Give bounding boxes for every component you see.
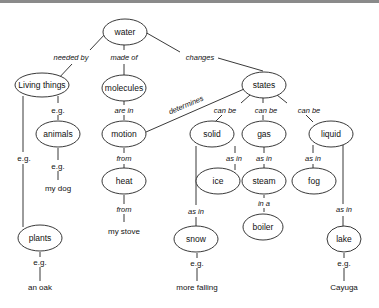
node-lake: lake bbox=[327, 226, 361, 252]
link-label-as-in: as in bbox=[226, 154, 242, 163]
link-label-as-in: as in bbox=[188, 207, 204, 216]
node-boiler: boiler bbox=[243, 214, 283, 240]
node-label: molecules bbox=[105, 83, 143, 93]
node-label: animals bbox=[43, 129, 72, 139]
node-label: boiler bbox=[253, 222, 274, 232]
link-label-can-be: can be bbox=[255, 106, 278, 115]
link-label-made-of: made of bbox=[110, 53, 138, 62]
link-label-from: from bbox=[117, 205, 132, 214]
link-label-from: from bbox=[117, 154, 132, 163]
link-label-eg: e.g. bbox=[337, 259, 350, 268]
node-steam: steam bbox=[242, 168, 286, 194]
link-label-needed-by: needed by bbox=[53, 53, 89, 62]
node-label: lake bbox=[336, 234, 352, 244]
node-label: fog bbox=[308, 176, 320, 186]
node-gas: gas bbox=[242, 121, 286, 147]
node-label: steam bbox=[252, 176, 275, 186]
node-living-things: Living things bbox=[15, 73, 69, 97]
node-label: states bbox=[253, 80, 276, 90]
node-motion: motion bbox=[102, 121, 146, 147]
leaf-an-oak: an oak bbox=[28, 283, 53, 292]
link-label-eg: e.g. bbox=[51, 162, 64, 171]
node-label: water bbox=[114, 27, 136, 37]
link-label-as-in: as in bbox=[305, 154, 321, 163]
node-water: water bbox=[103, 19, 147, 45]
link-label-in-a: in a bbox=[258, 199, 270, 208]
link-label-determines: determines bbox=[167, 94, 205, 117]
link-label-eg: e.g. bbox=[33, 258, 46, 267]
link-label-are-in: are in bbox=[115, 106, 134, 115]
link-label-as-in: as in bbox=[256, 154, 272, 163]
node-label: Living things bbox=[18, 80, 65, 90]
concept-map: water Living things molecules states ani… bbox=[0, 0, 379, 308]
node-fog: fog bbox=[292, 168, 336, 194]
link-label-eg: e.g. bbox=[190, 259, 203, 268]
node-solid: solid bbox=[190, 121, 234, 147]
link-label-can-be: can be bbox=[214, 106, 237, 115]
node-label: heat bbox=[116, 176, 133, 186]
node-molecules: molecules bbox=[102, 75, 146, 101]
node-heat: heat bbox=[102, 168, 146, 194]
link-label-can-be: can be bbox=[298, 106, 321, 115]
leaf-my-dog: my dog bbox=[45, 184, 71, 193]
link-label-changes: changes bbox=[186, 53, 215, 62]
node-label: motion bbox=[111, 129, 137, 139]
node-snow: snow bbox=[174, 226, 218, 252]
node-plants: plants bbox=[18, 225, 62, 251]
link-label-eg: e.g. bbox=[17, 154, 30, 163]
link-label-as-in: as in bbox=[336, 205, 352, 214]
leaf-my-stove: my stove bbox=[108, 227, 141, 236]
link-label-eg: e.g. bbox=[51, 106, 64, 115]
node-label: gas bbox=[257, 129, 271, 139]
node-label: solid bbox=[203, 129, 221, 139]
node-states: states bbox=[242, 72, 286, 98]
node-label: snow bbox=[186, 234, 207, 244]
leaf-cayuga: Cayuga bbox=[330, 283, 358, 292]
node-ice: ice bbox=[196, 168, 240, 194]
node-animals: animals bbox=[36, 121, 80, 147]
node-liquid: liquid bbox=[309, 121, 353, 147]
leaf-more-falling: more falling bbox=[176, 283, 217, 292]
node-label: ice bbox=[213, 176, 224, 186]
node-label: liquid bbox=[321, 129, 341, 139]
node-label: plants bbox=[29, 233, 52, 243]
